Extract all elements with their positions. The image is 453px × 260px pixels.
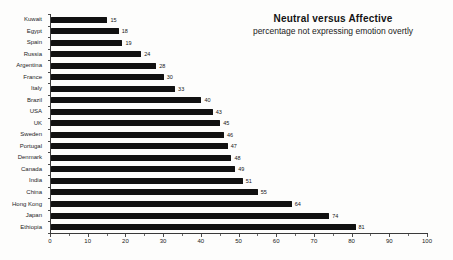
x-axis-tick (50, 234, 51, 237)
bar-value-label: 18 (122, 28, 128, 34)
bar-value-label: 30 (167, 74, 173, 80)
category-label: France (0, 74, 46, 81)
x-axis-tick (276, 234, 277, 237)
category-label: USA (0, 108, 46, 115)
category-label: Japan (0, 212, 46, 219)
bar (51, 155, 231, 161)
bar (51, 28, 119, 34)
bar (51, 17, 107, 23)
bar-row: 15 (51, 15, 427, 25)
plot-area: 15181924283033404345464748495155647481 (51, 14, 427, 233)
bar-row: 33 (51, 84, 427, 94)
bar-value-label: 81 (359, 224, 365, 230)
bar-row: 51 (51, 176, 427, 186)
bar (51, 120, 220, 126)
category-label: Canada (0, 166, 46, 173)
bar-value-label: 19 (125, 40, 131, 46)
bar-row: 81 (51, 222, 427, 232)
bar-value-label: 15 (110, 17, 116, 23)
bar (51, 166, 235, 172)
category-label: Portugal (0, 143, 46, 150)
x-axis-tick-label: 0 (48, 238, 51, 244)
category-label: Russia (0, 51, 46, 58)
bar (51, 132, 224, 138)
x-axis-tick-label: 50 (235, 238, 242, 244)
bar-row: 46 (51, 130, 427, 140)
category-label: India (0, 177, 46, 184)
category-label: Spain (0, 39, 46, 46)
x-axis-minor-tick (370, 234, 371, 236)
bar (51, 224, 356, 230)
bar-value-label: 51 (246, 178, 252, 184)
category-label: Sweden (0, 131, 46, 138)
bar (51, 74, 164, 80)
category-label: Brazil (0, 97, 46, 104)
bar-row: 48 (51, 153, 427, 163)
bar-row: 18 (51, 26, 427, 36)
bar-value-label: 74 (332, 213, 338, 219)
bar (51, 86, 175, 92)
bar (51, 201, 292, 207)
category-label-column: KuwaitEgyptSpainRussiaArgentinaFranceIta… (0, 14, 46, 233)
bar-value-label: 48 (234, 155, 240, 161)
x-axis-tick-label: 30 (160, 238, 167, 244)
category-label: Egypt (0, 28, 46, 35)
bar (51, 189, 258, 195)
x-axis-tick (389, 234, 390, 237)
x-axis-tick-label: 40 (197, 238, 204, 244)
category-label: Ethiopia (0, 224, 46, 231)
x-axis-tick (88, 234, 89, 237)
x-axis-minor-tick (69, 234, 70, 236)
bar-value-label: 28 (159, 63, 165, 69)
bar-chart: Neutral versus Affective percentage not … (0, 0, 453, 260)
bar (51, 178, 243, 184)
bar-value-label: 64 (295, 201, 301, 207)
bar-row: 43 (51, 107, 427, 117)
x-axis-minor-tick (295, 234, 296, 236)
x-axis-tick (352, 234, 353, 237)
bar-value-label: 40 (204, 97, 210, 103)
bar (51, 63, 156, 69)
x-axis-minor-tick (220, 234, 221, 236)
x-axis-minor-tick (257, 234, 258, 236)
bar (51, 40, 122, 46)
bar (51, 97, 201, 103)
x-axis-minor-tick (144, 234, 145, 236)
bar (51, 109, 213, 115)
x-axis-tick-label: 20 (122, 238, 129, 244)
bar (51, 51, 141, 57)
category-label: China (0, 189, 46, 196)
bar-value-label: 45 (223, 120, 229, 126)
x-axis-tick-label: 80 (348, 238, 355, 244)
bar-row: 19 (51, 38, 427, 48)
x-axis-tick (239, 234, 240, 237)
bar-row: 30 (51, 72, 427, 82)
x-axis-tick-label: 10 (84, 238, 91, 244)
bar-row: 74 (51, 211, 427, 221)
bar-value-label: 33 (178, 86, 184, 92)
bar (51, 213, 329, 219)
bar-row: 40 (51, 95, 427, 105)
bar-row: 55 (51, 187, 427, 197)
bar-row: 24 (51, 49, 427, 59)
x-axis-tick-label: 100 (422, 238, 432, 244)
x-axis-tick (163, 234, 164, 237)
category-label: Kuwait (0, 16, 46, 23)
bar (51, 143, 228, 149)
x-axis-tick (427, 234, 428, 237)
category-label: Argentina (0, 62, 46, 69)
bar-value-label: 47 (231, 143, 237, 149)
x-axis-tick (201, 234, 202, 237)
category-label: Italy (0, 85, 46, 92)
bar-value-label: 46 (227, 132, 233, 138)
category-label: Denmark (0, 154, 46, 161)
x-axis-minor-tick (408, 234, 409, 236)
x-axis-tick-label: 70 (311, 238, 318, 244)
x-axis-minor-tick (107, 234, 108, 236)
category-label: UK (0, 120, 46, 127)
x-axis-minor-tick (182, 234, 183, 236)
bar-row: 47 (51, 141, 427, 151)
bar-value-label: 49 (238, 166, 244, 172)
bar-row: 49 (51, 164, 427, 174)
x-axis-tick (314, 234, 315, 237)
